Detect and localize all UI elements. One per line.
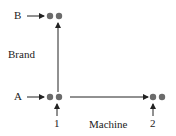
machine2-dot-2 [159, 94, 165, 100]
node-label-a: A [14, 91, 22, 102]
axis-label-brand: Brand [8, 49, 35, 60]
tick-label-1: 1 [54, 118, 60, 129]
b-dot-2 [56, 13, 62, 19]
a-dot-2 [56, 94, 62, 100]
a-dot-1 [47, 94, 53, 100]
tick-label-2: 2 [150, 118, 156, 129]
b-dot-1 [47, 13, 53, 19]
diagram: B A Brand Machine 1 2 [0, 0, 176, 136]
diagram-graphics [0, 0, 176, 136]
axis-label-machine: Machine [89, 119, 127, 130]
node-label-b: B [14, 10, 21, 21]
machine2-dot-1 [150, 94, 156, 100]
